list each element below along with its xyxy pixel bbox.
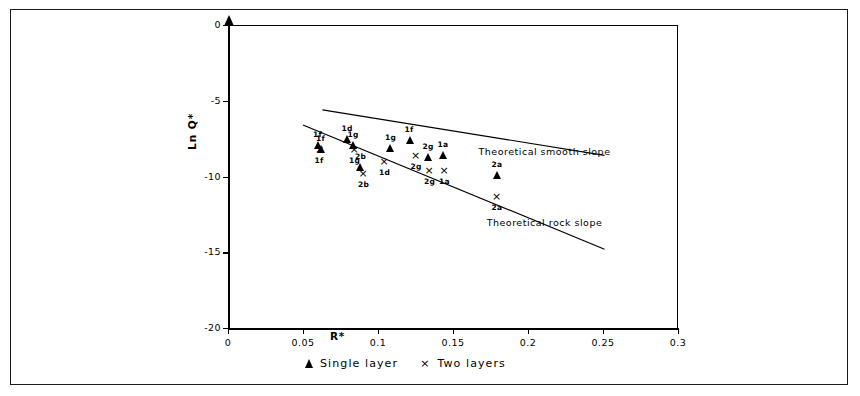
y-tick-label: -5 — [211, 94, 221, 107]
triangle-marker-icon — [386, 144, 394, 152]
legend-label-single-layer: Single layer — [320, 357, 398, 370]
figure-root: 0-5-10-15-20 00.050.10.150.20.250.3 Theo… — [0, 0, 860, 396]
x-tick-mark — [678, 328, 679, 334]
x-tick-mark — [453, 328, 454, 334]
x-tick-mark — [603, 328, 604, 334]
data-point-label: 1a — [439, 178, 450, 186]
legend-label-two-layers: Two layers — [437, 357, 505, 370]
x-marker-icon: × — [315, 144, 324, 155]
y-axis-title: Ln Q* — [186, 113, 198, 150]
x-marker-icon: × — [425, 165, 434, 176]
x-tick-label: 0.2 — [520, 337, 536, 348]
x-tick-mark — [528, 328, 529, 334]
data-point-label: 1g — [349, 157, 360, 165]
y-tick-label: -20 — [204, 321, 221, 334]
triangle-marker-icon — [305, 359, 313, 368]
x-marker-icon: × — [359, 168, 368, 179]
x-marker-icon: × — [440, 165, 449, 176]
x-marker-icon: × — [380, 156, 389, 167]
x-tick-label: 0.3 — [670, 337, 686, 348]
data-point-label: 1f — [315, 157, 324, 165]
x-tick-mark — [228, 328, 229, 334]
data-point-label: 1f — [405, 126, 414, 134]
x-tick-mark — [303, 328, 304, 334]
triangle-marker-icon — [424, 153, 432, 161]
y-tick-label: -15 — [204, 245, 221, 258]
data-point-label: 1a — [438, 141, 449, 149]
y-tick-label: 0 — [215, 18, 221, 31]
chart-legend: Single layer × Two layers — [305, 357, 506, 370]
trend-line-label: Theoretical smooth slope — [479, 146, 611, 157]
data-point-label: 2a — [492, 204, 503, 212]
legend-item-single-layer: Single layer — [305, 357, 398, 370]
triangle-marker-icon — [439, 151, 447, 159]
data-point-label: 2a — [492, 161, 503, 169]
legend-item-two-layers: × Two layers — [420, 357, 506, 370]
triangle-marker-icon — [493, 171, 501, 179]
x-tick-label: 0 — [225, 337, 231, 348]
x-tick-mark — [378, 328, 379, 334]
data-point-label: 1d — [379, 169, 390, 177]
x-marker-icon: × — [411, 150, 420, 161]
x-tick-label: 0.05 — [292, 337, 315, 348]
x-axis-title: R* — [330, 330, 345, 342]
x-tick-label: 0.25 — [592, 337, 615, 348]
data-point-label: 2g — [411, 163, 422, 171]
x-marker-icon: × — [420, 358, 430, 369]
trend-lines — [228, 25, 678, 328]
y-tick-label: -10 — [204, 170, 221, 183]
data-point-label: 1g — [385, 134, 396, 142]
data-point-label: 2b — [358, 181, 369, 189]
data-point-label: 2g — [423, 143, 434, 151]
x-marker-icon: × — [492, 191, 501, 202]
data-point-label: 1g — [348, 131, 359, 139]
trend-line-label: Theoretical rock slope — [487, 217, 603, 228]
x-marker-icon: × — [350, 144, 359, 155]
triangle-marker-icon — [406, 136, 414, 144]
x-tick-label: 0.1 — [370, 337, 386, 348]
x-tick-label: 0.15 — [442, 337, 465, 348]
plot-area: 0-5-10-15-20 00.050.10.150.20.250.3 Theo… — [228, 25, 678, 328]
data-point-label: 2g — [424, 178, 435, 186]
